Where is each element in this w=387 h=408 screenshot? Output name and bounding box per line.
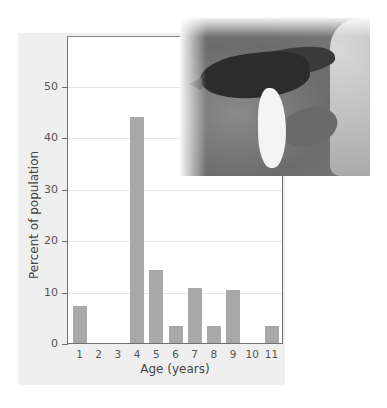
x-axis-title: Age (years): [67, 362, 283, 376]
bar-age-8: [207, 326, 221, 343]
y-tick: [62, 138, 68, 139]
y-tick-label: 10: [28, 287, 58, 299]
bar-age-1: [73, 306, 87, 343]
y-tick: [62, 344, 68, 345]
y-tick: [62, 190, 68, 191]
bar-age-4: [130, 117, 144, 343]
x-tick-label: 8: [204, 348, 224, 360]
y-tick-label: 20: [28, 235, 58, 247]
x-tick-label: 4: [127, 348, 147, 360]
y-tick-label: 30: [28, 184, 58, 196]
x-tick-label: 7: [185, 348, 205, 360]
bar-age-11: [265, 326, 279, 343]
y-tick-label: 40: [28, 132, 58, 144]
x-tick-label: 6: [166, 348, 186, 360]
y-axis-title: Percent of population: [27, 151, 41, 279]
y-tick-label: 0: [28, 338, 58, 350]
x-tick-label: 10: [242, 348, 262, 360]
bar-age-9: [226, 290, 240, 343]
bar-age-5: [149, 270, 163, 343]
bar-age-7: [188, 288, 202, 343]
y-tick: [62, 87, 68, 88]
finch-photo: [180, 18, 370, 176]
gridline: [68, 293, 282, 294]
x-tick-label: 9: [223, 348, 243, 360]
gridline: [68, 190, 282, 191]
y-tick-label: 50: [28, 81, 58, 93]
x-tick-label: 5: [146, 348, 166, 360]
gridline: [68, 241, 282, 242]
x-tick-label: 2: [89, 348, 109, 360]
x-tick-label: 1: [70, 348, 90, 360]
y-tick: [62, 293, 68, 294]
bar-age-6: [169, 326, 183, 343]
photo-fade-overlay: [180, 18, 370, 176]
x-tick-label: 3: [108, 348, 128, 360]
x-tick-label: 11: [262, 348, 282, 360]
y-tick: [62, 241, 68, 242]
